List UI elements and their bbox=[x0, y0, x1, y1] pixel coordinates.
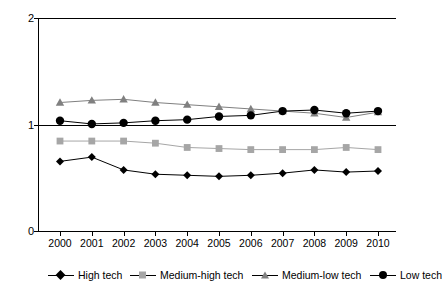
plot-area bbox=[38, 18, 396, 232]
legend-item-medium-low-tech: Medium-low tech bbox=[252, 268, 361, 282]
triangle-marker bbox=[252, 275, 278, 276]
x-tick-2005 bbox=[219, 232, 220, 236]
x-tick-2010 bbox=[378, 232, 379, 236]
y-axis-label-2: 2 bbox=[8, 13, 34, 24]
x-tick-2008 bbox=[314, 232, 315, 236]
x-axis-label-2010: 2010 bbox=[358, 238, 398, 249]
legend-label-medium-low-tech: Medium-low tech bbox=[282, 269, 361, 281]
legend-item-high-tech: High tech bbox=[48, 268, 122, 282]
series-medium-high-tech bbox=[57, 138, 382, 153]
legend-label-low-tech: Low tech bbox=[400, 269, 442, 281]
x-tick-2001 bbox=[92, 232, 93, 236]
y-axis-label-1: 1 bbox=[8, 120, 34, 131]
y-axis-label-0: 0 bbox=[8, 226, 34, 237]
legend-label-medium-high-tech: Medium-high tech bbox=[160, 269, 243, 281]
series-plot bbox=[38, 18, 396, 232]
x-tick-2006 bbox=[251, 232, 252, 236]
circle-marker bbox=[370, 275, 396, 276]
square-marker bbox=[130, 275, 156, 276]
legend-item-low-tech: Low tech bbox=[370, 268, 442, 282]
x-tick-2004 bbox=[187, 232, 188, 236]
series-high-tech bbox=[56, 153, 382, 180]
x-tick-2000 bbox=[60, 232, 61, 236]
legend-item-medium-high-tech: Medium-high tech bbox=[130, 268, 243, 282]
x-tick-2002 bbox=[124, 232, 125, 236]
diamond-marker bbox=[48, 275, 74, 276]
x-tick-2007 bbox=[283, 232, 284, 236]
legend-label-high-tech: High tech bbox=[78, 269, 122, 281]
x-tick-2003 bbox=[155, 232, 156, 236]
x-tick-2009 bbox=[346, 232, 347, 236]
chart-legend: High tech Medium-high tech Medium-low te… bbox=[30, 268, 420, 286]
